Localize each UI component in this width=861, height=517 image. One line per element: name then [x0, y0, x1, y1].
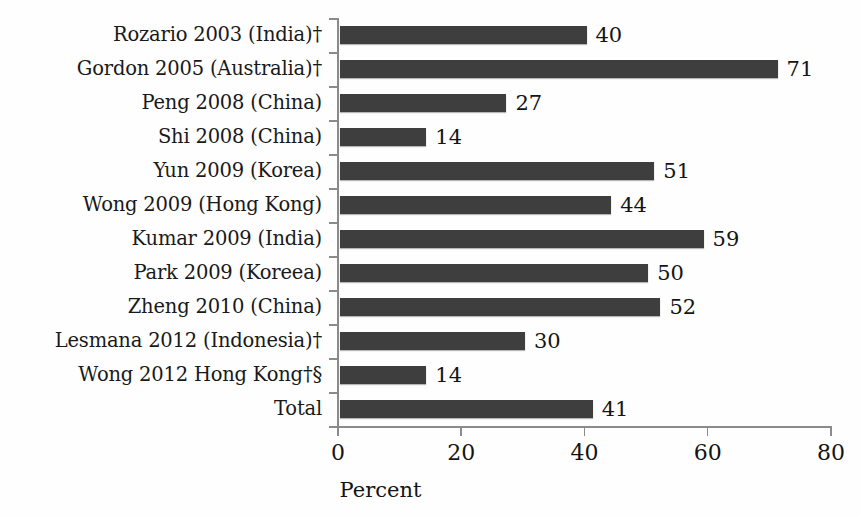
bar-row: 50 — [338, 256, 831, 290]
category-label: Yun 2009 (Korea) — [153, 159, 330, 182]
x-axis-tick-label: 40 — [571, 440, 599, 465]
x-axis-title: Percent — [0, 478, 861, 502]
bar-chart-figure: Rozario 2003 (India)†Gordon 2005 (Austra… — [0, 0, 861, 517]
y-axis-tick — [329, 222, 338, 224]
bar — [340, 26, 587, 44]
category-label-row: Peng 2008 (China) — [0, 86, 330, 120]
bar-value-label: 71 — [778, 55, 814, 83]
category-label: Rozario 2003 (India)† — [113, 23, 330, 46]
y-axis-tick — [329, 324, 338, 326]
bar-row: 44 — [338, 188, 831, 222]
bar-row: 41 — [338, 392, 831, 426]
x-axis-tick-label: 20 — [447, 440, 475, 465]
bar-row: 40 — [338, 18, 831, 52]
x-axis-tick — [584, 427, 586, 436]
category-label: Shi 2008 (China) — [158, 125, 330, 148]
y-axis-tick — [329, 154, 338, 156]
bar-row: 14 — [338, 358, 831, 392]
y-axis-tick — [329, 256, 338, 258]
x-axis-tick-label: 0 — [331, 440, 345, 465]
y-axis-tick — [329, 18, 338, 20]
category-label-row: Kumar 2009 (India) — [0, 222, 330, 256]
bar — [340, 94, 506, 112]
x-axis-tick — [707, 427, 709, 436]
y-axis-tick — [329, 52, 338, 54]
bar — [340, 298, 660, 316]
bar-value-label: 41 — [593, 395, 629, 423]
category-label: Kumar 2009 (India) — [132, 227, 330, 250]
category-label: Total — [274, 397, 330, 420]
category-label: Park 2009 (Koreea) — [134, 261, 330, 284]
category-label-row: Shi 2008 (China) — [0, 120, 330, 154]
y-axis-tick — [329, 120, 338, 122]
category-label-row: Yun 2009 (Korea) — [0, 154, 330, 188]
bar-row: 59 — [338, 222, 831, 256]
bar-row: 14 — [338, 120, 831, 154]
category-label-row: Wong 2012 Hong Kong†§ — [0, 358, 330, 392]
category-label-row: Zheng 2010 (China) — [0, 290, 330, 324]
plot-area: 407127145144595052301441 — [338, 18, 831, 426]
x-axis-title-text: Percent — [340, 478, 422, 502]
bar — [340, 264, 648, 282]
bar — [340, 400, 593, 418]
bar-value-label: 52 — [660, 293, 696, 321]
y-axis-tick — [329, 86, 338, 88]
bar — [340, 60, 778, 78]
category-label-row: Total — [0, 392, 330, 426]
category-label: Gordon 2005 (Australia)† — [77, 57, 330, 80]
category-label: Wong 2009 (Hong Kong) — [83, 193, 330, 216]
x-axis-tick — [830, 427, 832, 436]
bar — [340, 230, 704, 248]
category-label-row: Wong 2009 (Hong Kong) — [0, 188, 330, 222]
y-axis-tick — [329, 358, 338, 360]
bar-value-label: 27 — [506, 89, 542, 117]
category-label: Zheng 2010 (China) — [128, 295, 330, 318]
category-label-row: Gordon 2005 (Australia)† — [0, 52, 330, 86]
category-label-row: Park 2009 (Koreea) — [0, 256, 330, 290]
bar-row: 51 — [338, 154, 831, 188]
category-axis-labels: Rozario 2003 (India)†Gordon 2005 (Austra… — [0, 18, 330, 426]
category-label-row: Rozario 2003 (India)† — [0, 18, 330, 52]
bar-value-label: 50 — [648, 259, 684, 287]
bar-value-label: 14 — [426, 123, 462, 151]
x-axis-tick — [460, 427, 462, 436]
bar-value-label: 59 — [704, 225, 740, 253]
x-axis-tick-label: 60 — [694, 440, 722, 465]
bar — [340, 366, 426, 384]
category-label: Wong 2012 Hong Kong†§ — [78, 363, 330, 386]
bar-row: 52 — [338, 290, 831, 324]
bar — [340, 162, 654, 180]
category-label: Lesmana 2012 (Indonesia)† — [55, 329, 330, 352]
bar — [340, 196, 611, 214]
x-axis-tick-label: 80 — [817, 440, 845, 465]
y-axis-tick — [329, 188, 338, 190]
category-label: Peng 2008 (China) — [141, 91, 330, 114]
bar-value-label: 51 — [654, 157, 690, 185]
bar-row: 27 — [338, 86, 831, 120]
y-axis-tick — [329, 392, 338, 394]
bar-value-label: 40 — [587, 21, 623, 49]
bar-row: 71 — [338, 52, 831, 86]
bar — [340, 332, 525, 350]
y-axis-tick — [329, 290, 338, 292]
bar-value-label: 14 — [426, 361, 462, 389]
bar-row: 30 — [338, 324, 831, 358]
bar-value-label: 30 — [525, 327, 561, 355]
category-label-row: Lesmana 2012 (Indonesia)† — [0, 324, 330, 358]
bar — [340, 128, 426, 146]
bar-value-label: 44 — [611, 191, 647, 219]
x-axis-tick — [337, 427, 339, 436]
